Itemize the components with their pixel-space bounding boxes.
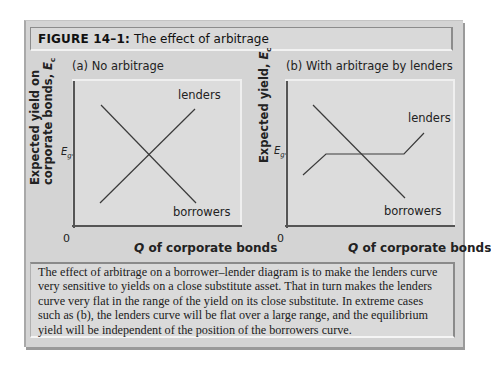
panel-b-label: (b) With arbitrage by lenders [286, 59, 453, 73]
panel-a-origin-label: 0 [63, 232, 70, 245]
panel-b-lenders-curve [303, 133, 424, 175]
panel-b-lenders-label: lenders [408, 111, 451, 125]
figure-title-text: The effect of arbitrage [134, 32, 269, 46]
panel-a-label: (a) No arbitrage [72, 59, 164, 73]
panel-a-borrowers-label: borrowers [173, 205, 231, 219]
panel-a-lenders-label: lenders [178, 88, 221, 102]
panel-a-eg-tick-label: Eg [61, 146, 72, 160]
figure-title: FIGURE 14–1: The effect of arbitrage [38, 32, 269, 46]
panel-b-origin-label: 0 [277, 232, 284, 245]
panel-b-borrowers-label: borrowers [384, 204, 442, 218]
panel-a-y-axis-line2: corporate bonds, Ec [42, 75, 60, 185]
panel-a-y-axis-label: Expected yield on corporate bonds, Ec [29, 75, 60, 185]
panel-b-eg-tick-label: Eg [274, 145, 285, 159]
panel-a-lenders-curve [100, 109, 195, 203]
figure-number: FIGURE 14–1: [38, 32, 130, 46]
panel-b-borrowers-curve [313, 105, 405, 198]
caption-text: The effect of arbitrage on a borrower–le… [38, 265, 448, 337]
panel-b-x-axis-label: Q of corporate bonds [348, 241, 491, 255]
panel-a-x-axis-label: Q of corporate bonds [134, 241, 277, 255]
